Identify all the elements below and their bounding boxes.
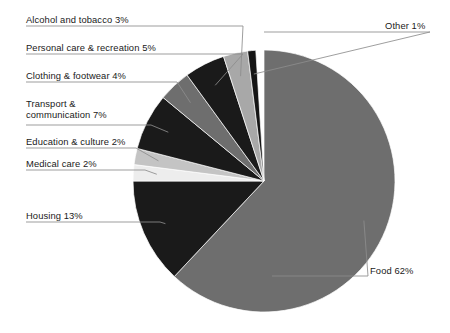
pie-label-other: Other 1%	[385, 20, 425, 31]
pie-label-medical-care: Medical care 2%	[26, 158, 97, 169]
pie-label-personal-care-recreation: Personal care & recreation 5%	[26, 42, 156, 53]
pie-chart-figure: Food 62%Housing 13%Medical care 2%Educat…	[0, 0, 450, 333]
pie-label-transport-communication: Transport & communication 7%	[26, 98, 107, 121]
pie-label-clothing-footwear: Clothing & footwear 4%	[26, 70, 126, 81]
pie-label-food: Food 62%	[370, 265, 414, 276]
pie-label-alcohol-and-tobacco: Alcohol and tobacco 3%	[26, 14, 129, 25]
pie-slice-group	[133, 50, 395, 312]
pie-label-housing: Housing 13%	[26, 210, 83, 221]
pie-label-education-culture: Education & culture 2%	[26, 136, 126, 147]
